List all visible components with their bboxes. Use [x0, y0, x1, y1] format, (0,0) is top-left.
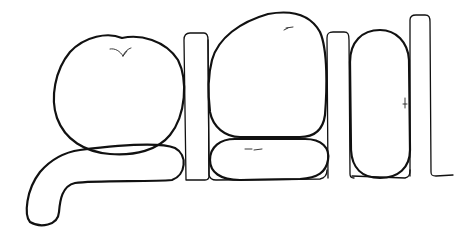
- tall-oval-loaf: [350, 30, 410, 178]
- flat-loaf: [210, 139, 328, 180]
- illustration-canvas: [0, 0, 474, 240]
- slab-3: [410, 15, 453, 176]
- loaf-mark: [284, 27, 293, 30]
- hook-loaf: [27, 145, 184, 226]
- slab-1: [184, 33, 209, 180]
- apple-stem-icon: [110, 48, 131, 56]
- apple: [54, 35, 184, 154]
- line-drawing: [0, 0, 474, 240]
- rounded-square-loaf: [209, 13, 327, 137]
- loaf-mark: [245, 149, 262, 150]
- loaf-mark: [403, 98, 407, 108]
- middle-frame: [208, 40, 327, 180]
